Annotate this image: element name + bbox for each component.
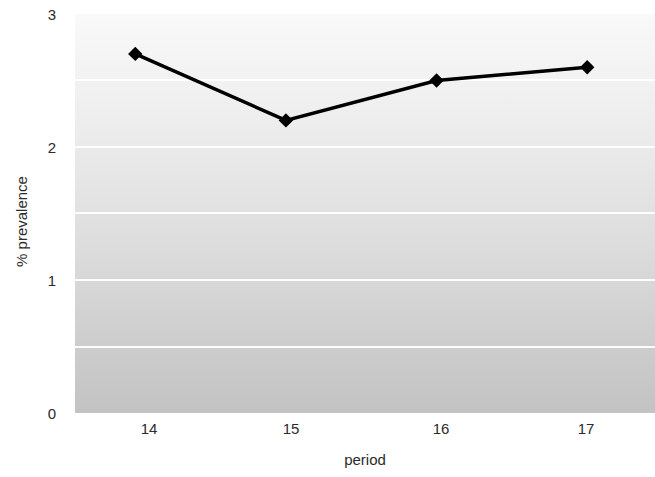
y-axis-ticklabels: 3 2 1 0 xyxy=(0,0,66,477)
x-ticklabel-16: 16 xyxy=(433,421,450,436)
y-ticklabel-0: 0 xyxy=(48,406,56,421)
data-point-marker xyxy=(429,73,443,87)
line-chart-figure: 3 2 1 0 % prevalence 14 15 16 17 period xyxy=(0,0,655,477)
data-point-marker xyxy=(128,47,142,61)
x-axis-ticklabels: 14 15 16 17 xyxy=(0,421,655,441)
x-ticklabel-17: 17 xyxy=(578,421,595,436)
y-ticklabel-2: 2 xyxy=(48,140,56,155)
data-series-layer xyxy=(75,14,655,413)
series-line-prevalence xyxy=(135,54,587,121)
data-point-marker xyxy=(580,60,594,74)
y-ticklabel-1: 1 xyxy=(48,273,56,288)
y-ticklabel-3: 3 xyxy=(48,7,56,22)
data-point-marker xyxy=(279,113,293,127)
plot-area xyxy=(75,14,655,413)
y-axis-title: % prevalence xyxy=(14,122,29,322)
series-markers-prevalence xyxy=(128,47,594,128)
x-axis-title: period xyxy=(75,452,655,467)
x-ticklabel-15: 15 xyxy=(283,421,300,436)
x-ticklabel-14: 14 xyxy=(141,421,158,436)
